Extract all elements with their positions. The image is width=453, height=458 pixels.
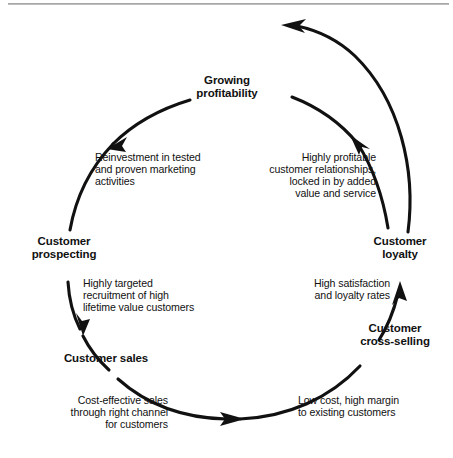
- node-label-customer-sales: Customer sales: [48, 352, 164, 365]
- arc-growing-to-prospecting: [113, 100, 190, 144]
- description-highly-targeted: Highly targeted recruitment of high life…: [83, 278, 233, 314]
- arc-outer-return: [297, 26, 410, 232]
- node-label-customer-loyalty: Customer loyalty: [352, 235, 448, 261]
- description-high-satisfaction: High satisfaction and loyalty rates: [268, 278, 390, 302]
- description-highly-profitable: Highly profitable customer relationships…: [243, 152, 376, 199]
- node-label-growing-profitability: Growing profitability: [172, 74, 282, 100]
- arc-upper-right-to-growing: [292, 97, 358, 144]
- diagram-canvas: .arc { fill: none; stroke: #111111; stro…: [0, 0, 453, 458]
- arc-prospecting-to-sales: [68, 282, 80, 329]
- node-label-customer-prospecting: Customer prospecting: [8, 235, 120, 261]
- description-reinvestment: Reinvestment in tested and proven market…: [95, 152, 230, 188]
- node-label-customer-cross-selling: Customer cross-selling: [340, 322, 450, 348]
- cycle-arcs-svg: .arc { fill: none; stroke: #111111; stro…: [0, 0, 453, 458]
- description-cost-effective: Cost-effective sales through right chann…: [28, 395, 168, 431]
- arrowhead-to-loyalty: [392, 281, 407, 305]
- description-low-cost: Low cost, high margin to existing custom…: [298, 395, 448, 419]
